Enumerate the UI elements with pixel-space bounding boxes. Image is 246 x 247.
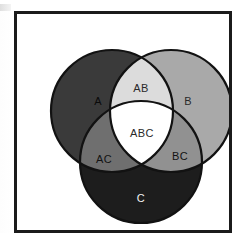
venn-diagram-svg: A B C AB AC BC ABC [17,14,229,230]
region-label-bc: BC [172,150,188,162]
region-label-ab: AB [133,82,148,94]
venn-diagram-page: A B C AB AC BC ABC [0,0,246,247]
region-label-a: A [94,95,102,107]
diagram-frame: A B C AB AC BC ABC [14,11,232,233]
region-label-abc: ABC [130,127,154,139]
scan-left-edge [0,11,13,233]
region-label-b: B [184,95,192,107]
region-label-c: C [137,192,145,204]
scan-smudge-artifact [0,4,11,11]
region-label-ac: AC [96,153,112,165]
